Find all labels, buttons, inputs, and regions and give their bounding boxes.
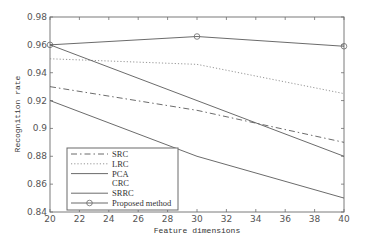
x-tick-label: 30 [191,214,203,224]
x-axis-label: Feature dimensions [154,226,241,235]
y-tick-label: 0.94 [27,68,47,78]
x-tick-label: 34 [250,214,262,224]
y-tick-label: 0.98 [27,12,47,22]
y-tick-label: 0.96 [27,40,47,50]
y-axis-label: Recognition rate [13,75,22,152]
x-tick-label: 36 [279,214,291,224]
legend-label: Proposed method [112,198,172,208]
y-tick-label: 0.84 [27,207,47,217]
y-tick-label: 0.92 [27,96,47,106]
y-tick-label: 0.88 [27,151,47,161]
y-tick-label: 0.86 [27,179,47,189]
x-tick-label: 32 [221,214,232,224]
legend-label: CRC [112,178,129,188]
legend: SRCLRCPCACRCSRRCProposed method [67,148,178,210]
x-tick-label: 40 [338,214,350,224]
x-tick-label: 38 [309,214,321,224]
x-tick-label: 28 [162,214,174,224]
y-tick-label: 0.9 [33,123,48,133]
x-tick-label: 22 [74,214,85,224]
x-tick-label: 26 [132,214,144,224]
line-chart: 2022242628303234363840 0.840.860.880.90.… [0,0,366,245]
legend-label: PCA [112,169,129,179]
legend-label: LRC [112,159,129,169]
x-tick-label: 24 [103,214,115,224]
legend-label: SRRC [112,188,134,198]
legend-label: SRC [112,149,128,159]
